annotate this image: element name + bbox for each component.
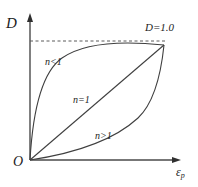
annotation-d-max: D=1.0 [145, 22, 174, 33]
annotation-curve-n-greater-than-1: n>1 [95, 131, 112, 141]
x-axis-arrowhead [172, 157, 181, 163]
x-axis-label-subscript: p [181, 171, 185, 180]
y-axis-arrowhead [27, 13, 33, 22]
damage-evolution-figure: D εp O D=1.0 n<1 n=1 n>1 [0, 0, 198, 187]
annotation-curve-n-equals-1: n=1 [73, 95, 90, 105]
annotation-curve-n-less-than-1: n<1 [45, 57, 62, 67]
x-axis-label: εp [176, 166, 185, 180]
y-axis-label: D [6, 16, 17, 31]
origin-label: O [13, 155, 23, 169]
x-axis [30, 157, 181, 163]
